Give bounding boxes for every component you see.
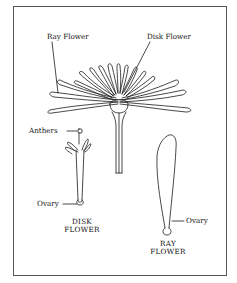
ray-flower-pointer: [52, 42, 58, 93]
label-ovary-ray: Ovary: [186, 217, 208, 224]
caption-disk-line2: FLOWER: [60, 226, 104, 233]
stem-icon: [112, 112, 126, 173]
flower-anatomy-drawing: [0, 0, 237, 283]
label-ovary-disk: Ovary: [37, 200, 59, 207]
ray-petals-icon: [48, 80, 191, 113]
caption-disk-line1: DISK: [60, 218, 104, 225]
disk-florets-icon: [74, 64, 155, 99]
label-ray-flower: Ray Flower: [47, 33, 89, 40]
caption-ray-flower: RAY FLOWER: [146, 240, 190, 255]
caption-ray-line2: FLOWER: [146, 248, 190, 255]
label-anthers: Anthers: [29, 127, 58, 134]
ray-flower-detail-icon: [157, 135, 176, 235]
caption-disk-flower: DISK FLOWER: [60, 218, 104, 233]
disk-flower-detail-icon: [65, 129, 91, 205]
caption-ray-line1: RAY: [146, 240, 190, 247]
label-disk-flower: Disk Flower: [147, 33, 191, 40]
